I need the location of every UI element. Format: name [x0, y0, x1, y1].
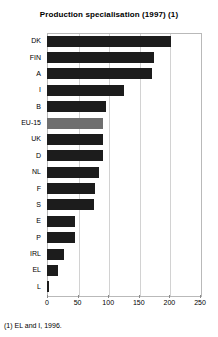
x-tick-label: 0	[45, 299, 49, 307]
category-label-e: E	[0, 213, 44, 229]
bar-row[interactable]	[47, 99, 200, 115]
category-label-i: I	[0, 82, 44, 98]
bar-row[interactable]	[47, 82, 200, 98]
category-label-a: A	[0, 66, 44, 82]
bar-s[interactable]	[47, 199, 94, 210]
bar-f[interactable]	[47, 183, 95, 194]
bar-row[interactable]	[47, 164, 200, 180]
bar-row[interactable]	[47, 49, 200, 65]
category-label-eu-15: EU-15	[0, 115, 44, 131]
x-tick	[47, 295, 48, 298]
bar-e[interactable]	[47, 216, 75, 227]
category-label-b: B	[0, 99, 44, 115]
bar-fin[interactable]	[47, 52, 154, 63]
category-label-f: F	[0, 180, 44, 196]
bar-i[interactable]	[47, 85, 124, 96]
x-tick	[108, 295, 109, 298]
bar-row[interactable]	[47, 279, 200, 295]
bar-row[interactable]	[47, 246, 200, 262]
category-label-el: EL	[0, 262, 44, 278]
x-tick-label: 150	[133, 299, 145, 307]
category-label-s: S	[0, 197, 44, 213]
bar-row[interactable]	[47, 262, 200, 278]
footnote: (1) EL and I, 1996.	[4, 321, 62, 330]
bar-dk[interactable]	[47, 36, 171, 47]
bar-b[interactable]	[47, 101, 106, 112]
bar-el[interactable]	[47, 265, 58, 276]
category-label-dk: DK	[0, 33, 44, 49]
bar-row[interactable]	[47, 197, 200, 213]
bar-d[interactable]	[47, 150, 103, 161]
chart-title: Production specialisation (1997) (1)	[0, 10, 218, 20]
bar-a[interactable]	[47, 68, 152, 79]
x-tick-label: 200	[164, 299, 176, 307]
x-tick	[200, 295, 201, 298]
category-label-d: D	[0, 148, 44, 164]
x-tick	[139, 295, 140, 298]
x-tick-label: 100	[102, 299, 114, 307]
bar-uk[interactable]	[47, 134, 103, 145]
x-tick-label: 250	[194, 299, 206, 307]
category-label-irl: IRL	[0, 246, 44, 262]
bar-row[interactable]	[47, 180, 200, 196]
category-label-uk: UK	[0, 131, 44, 147]
bar-row[interactable]	[47, 213, 200, 229]
bar-p[interactable]	[47, 232, 75, 243]
bar-row[interactable]	[47, 148, 200, 164]
x-tick	[169, 295, 170, 298]
bar-l[interactable]	[47, 281, 49, 292]
category-label-l: L	[0, 279, 44, 295]
bar-row[interactable]	[47, 230, 200, 246]
x-tick-label: 50	[74, 299, 82, 307]
bar-row[interactable]	[47, 66, 200, 82]
bar-nl[interactable]	[47, 167, 99, 178]
x-tick	[78, 295, 79, 298]
category-label-fin: FIN	[0, 49, 44, 65]
bar-eu-15[interactable]	[47, 118, 103, 129]
bar-row[interactable]	[47, 131, 200, 147]
category-label-nl: NL	[0, 164, 44, 180]
category-axis-labels: DKFINAIBEU-15UKDNLFSEPIRLELL	[0, 33, 44, 295]
bars-area	[47, 33, 200, 295]
bar-row[interactable]	[47, 115, 200, 131]
bar-row[interactable]	[47, 33, 200, 49]
bar-irl[interactable]	[47, 249, 64, 260]
chart-container: Production specialisation (1997) (1) DKF…	[0, 0, 218, 337]
category-label-p: P	[0, 230, 44, 246]
